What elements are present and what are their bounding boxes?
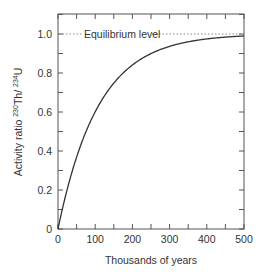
y-tick-label: 0.6 [37, 106, 52, 118]
x-axis-label: Thousands of years [105, 254, 197, 266]
y-tick-label: 1.0 [37, 28, 52, 40]
x-tick-label: 0 [55, 233, 61, 245]
x-tick-label: 100 [86, 233, 104, 245]
x-tick-label: 400 [198, 233, 216, 245]
y-tick-label: 0 [46, 223, 52, 235]
x-tick-label: 500 [235, 233, 253, 245]
equilibrium-label: Equilibrium level [84, 28, 160, 40]
y-tick-label: 0.8 [37, 67, 52, 79]
data-curve [58, 36, 244, 229]
y-tick-labels: 00.20.40.60.81.0 [37, 28, 52, 235]
chart: 0100200300400500 00.20.40.60.81.0 Equili… [0, 0, 267, 279]
y-label-den: U [12, 68, 24, 76]
y-label-den-sup: 234 [12, 75, 19, 87]
y-label-num: Th/ [12, 87, 24, 105]
y-axis-label: Activity ratio 230Th/ 234U [12, 68, 24, 177]
x-tick-labels: 0100200300400500 [55, 233, 253, 245]
y-tick-label: 0.4 [37, 145, 52, 157]
plot-frame [58, 14, 244, 229]
axis-ticks [58, 14, 244, 229]
y-label-prefix: Activity ratio [12, 117, 24, 177]
x-tick-label: 200 [124, 233, 142, 245]
y-tick-label: 0.2 [37, 184, 52, 196]
x-tick-label: 300 [161, 233, 179, 245]
y-label-num-sup: 230 [12, 105, 19, 117]
